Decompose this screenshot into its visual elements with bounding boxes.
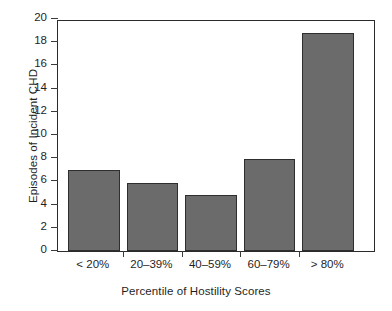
y-axis-tick: 8 xyxy=(51,157,58,158)
y-axis-tick: 16 xyxy=(51,64,58,65)
y-axis-tick-label: 2 xyxy=(41,220,47,232)
x-axis-tick xyxy=(299,251,300,257)
y-axis-tick-label: 4 xyxy=(41,197,47,209)
bar-chart-figure: Episodes of Incident CHD 024681012141618… xyxy=(0,0,392,311)
y-axis-tick-label: 12 xyxy=(34,104,47,116)
bar xyxy=(302,33,354,251)
x-axis-tick-label: 20–39% xyxy=(126,258,178,270)
y-axis-tick: 4 xyxy=(51,204,58,205)
y-axis-tick-label: 18 xyxy=(34,34,47,46)
y-axis-tick-label: 14 xyxy=(34,81,47,93)
x-axis-tick xyxy=(182,251,183,257)
y-axis-tick: 14 xyxy=(51,88,58,89)
y-axis-tick: 6 xyxy=(51,180,58,181)
y-axis-tick: 20 xyxy=(51,18,58,19)
bar xyxy=(185,195,237,251)
bar xyxy=(68,170,120,251)
y-axis-tick-label: 8 xyxy=(41,150,47,162)
x-axis-tick-label: 40–59% xyxy=(184,258,236,270)
x-axis-tick-label: < 20% xyxy=(67,258,119,270)
x-axis-title: Percentile of Hostility Scores xyxy=(0,285,392,297)
y-axis-tick-label: 10 xyxy=(34,127,47,139)
y-axis-tick: 10 xyxy=(51,134,58,135)
y-axis-tick: 2 xyxy=(51,227,58,228)
plot-area: 02468101214161820 xyxy=(57,20,375,252)
y-axis-tick: 12 xyxy=(51,111,58,112)
x-axis-tick-label: > 80% xyxy=(301,258,353,270)
y-axis-tick-label: 6 xyxy=(41,173,47,185)
y-axis-tick: 0 xyxy=(51,250,58,251)
y-axis-tick-label: 20 xyxy=(34,11,47,23)
y-axis-tick-label: 16 xyxy=(34,57,47,69)
y-axis-tick-label: 0 xyxy=(41,243,47,255)
bar xyxy=(127,183,179,251)
x-axis-tick xyxy=(240,251,241,257)
bar xyxy=(244,159,296,251)
x-axis-tick xyxy=(123,251,124,257)
x-axis-tick-label: 60–79% xyxy=(243,258,295,270)
y-axis-tick: 18 xyxy=(51,41,58,42)
